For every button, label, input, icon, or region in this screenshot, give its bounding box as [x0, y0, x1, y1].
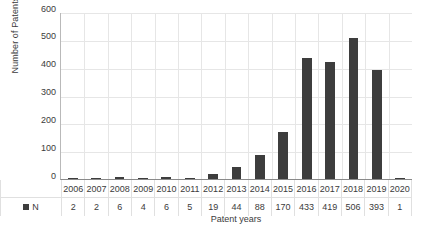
y-tick-label: 600 — [41, 5, 56, 14]
bar — [395, 178, 405, 179]
legend-label: N — [32, 203, 39, 212]
bar-slot — [61, 13, 84, 179]
bar-slot — [318, 13, 341, 179]
bar-slot — [342, 13, 365, 179]
y-tick-label: 400 — [41, 60, 56, 69]
plot-area — [60, 13, 412, 180]
bar — [349, 38, 359, 179]
bar — [232, 167, 242, 179]
y-tick-label: 500 — [41, 32, 56, 41]
table-row-years: 2006200720082009201020112012201320142015… — [1, 180, 412, 198]
table-header-year: 2014 — [248, 180, 271, 198]
bar — [278, 132, 288, 179]
table-header-year: 2010 — [155, 180, 178, 198]
y-tick-label: 200 — [41, 116, 56, 125]
table-corner-cell — [1, 180, 62, 198]
bar-slot — [201, 13, 224, 179]
bar — [91, 178, 101, 179]
x-axis-title: Patent years — [60, 214, 412, 224]
bar-slot — [155, 13, 178, 179]
y-axis-tick-labels: 0100200300400500600 — [26, 9, 56, 180]
bar-chart: Number of Patents 0100200300400500600 20… — [0, 0, 428, 233]
bar-slot — [131, 13, 154, 179]
bar — [208, 174, 218, 179]
table-header-year: 2020 — [388, 180, 411, 198]
bar-slot — [248, 13, 271, 179]
data-table: 2006200720082009201020112012201320142015… — [0, 180, 412, 216]
table-header-year: 2011 — [178, 180, 201, 198]
table-header-year: 2019 — [365, 180, 388, 198]
table-header-year: 2006 — [62, 180, 85, 198]
legend-entry: N — [1, 198, 62, 217]
bar — [115, 177, 125, 179]
y-tick-label: 100 — [41, 144, 56, 153]
bar — [185, 178, 195, 179]
bar — [138, 178, 148, 179]
bar-slot — [108, 13, 131, 179]
bar — [161, 177, 171, 179]
table-header-year: 2013 — [225, 180, 248, 198]
table-header-year: 2007 — [85, 180, 108, 198]
legend-swatch-icon — [23, 204, 29, 210]
bar-slot — [84, 13, 107, 179]
table-header-year: 2015 — [271, 180, 294, 198]
bar — [302, 58, 312, 179]
bar — [68, 178, 78, 179]
bar — [325, 62, 335, 179]
bar-slot — [365, 13, 388, 179]
bar-series-N — [61, 13, 412, 179]
bar — [372, 70, 382, 179]
bar — [255, 155, 265, 179]
table-header-year: 2016 — [295, 180, 318, 198]
bar-slot — [272, 13, 295, 179]
table-header-year: 2012 — [201, 180, 224, 198]
table-header-year: 2017 — [318, 180, 341, 198]
table-header-year: 2018 — [341, 180, 364, 198]
data-table-wrap: 2006200720082009201020112012201320142015… — [0, 180, 428, 216]
bar-slot — [225, 13, 248, 179]
y-tick-label: 300 — [41, 88, 56, 97]
y-axis-title: Number of Patents — [10, 0, 24, 120]
bar-slot — [389, 13, 412, 179]
table-header-year: 2009 — [131, 180, 154, 198]
bar-slot — [295, 13, 318, 179]
table-header-year: 2008 — [108, 180, 131, 198]
bar-slot — [178, 13, 201, 179]
